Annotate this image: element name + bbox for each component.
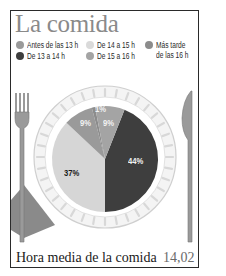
label-pct-9-right: 9% — [103, 118, 114, 128]
label-pct-9-left: 9% — [80, 118, 91, 128]
label-pct-1: 1% — [95, 104, 106, 114]
average-time-value: 14,02 — [163, 250, 195, 266]
knife-icon — [182, 91, 192, 242]
average-time-label: Hora media de la comida — [16, 250, 157, 266]
label-pct-37: 37% — [64, 168, 79, 178]
label-pct-44: 44% — [128, 156, 143, 166]
pie-chart-illustration — [0, 0, 226, 276]
